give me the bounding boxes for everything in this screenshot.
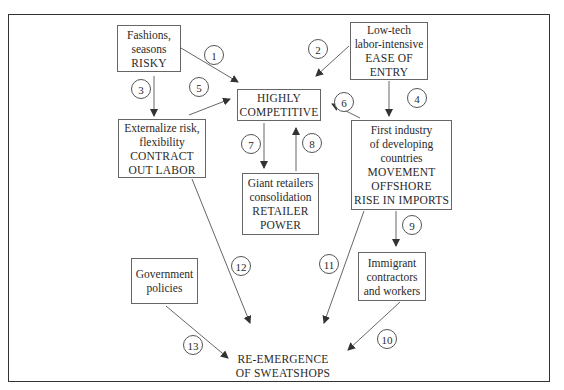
node-line: COMPETITIVE	[240, 105, 319, 119]
node-line: Externalize risk,	[124, 121, 199, 135]
node-giant-retailers: Giant retailers consolidation RETAILER P…	[242, 173, 319, 235]
node-government-policies: Government policies	[131, 258, 198, 304]
node-first-industry: First industry of developing countries M…	[351, 120, 452, 210]
edge-label-5: 5	[189, 77, 209, 97]
edge-label-2: 2	[308, 39, 328, 59]
edge-5-arrow	[189, 99, 230, 115]
node-line: contractors	[366, 270, 417, 284]
node-line: First industry	[371, 123, 433, 137]
node-line: RISKY	[131, 56, 167, 70]
node-line: CONTRACT	[130, 149, 194, 163]
edge-label-1: 1	[204, 45, 224, 65]
node-line: policies	[147, 281, 183, 295]
node-line: ENTRY	[370, 65, 409, 79]
node-externalize-risk: Externalize risk, flexibility CONTRACT O…	[118, 119, 206, 178]
node-line: countries	[380, 151, 422, 165]
node-line: Fashions,	[127, 28, 171, 42]
node-line: POWER	[260, 218, 301, 232]
edge-label-12: 12	[231, 256, 251, 276]
edge-label-8: 8	[302, 133, 322, 153]
node-low-tech-ease-of-entry: Low-tech labor-intensive EASE OF ENTRY	[350, 22, 428, 80]
node-highly-competitive: HIGHLY COMPETITIVE	[237, 89, 321, 121]
edge-label-6: 6	[334, 92, 354, 112]
edge-label-7: 7	[241, 134, 261, 154]
node-line: OFFSHORE	[371, 179, 431, 193]
node-line: RETAILER	[252, 204, 308, 218]
node-fashions-risky: Fashions, seasons RISKY	[117, 25, 181, 72]
node-immigrant-contractors: Immigrant contractors and workers	[358, 252, 426, 301]
node-line: Immigrant	[368, 256, 417, 270]
node-line: Government	[136, 267, 193, 281]
edge-label-9: 9	[402, 215, 422, 235]
node-line: consolidation	[250, 190, 312, 204]
node-line: RE-EMERGENCE	[232, 352, 334, 366]
node-line: seasons	[131, 42, 166, 56]
edge-label-11: 11	[319, 254, 339, 274]
node-line: EASE OF	[365, 51, 413, 65]
node-line: OF SWEATSHOPS	[232, 366, 334, 380]
node-line: labor-intensive	[355, 37, 424, 51]
edge-label-10: 10	[377, 329, 397, 349]
node-line: of developing	[370, 137, 434, 151]
edge-label-3: 3	[131, 79, 151, 99]
node-line: and workers	[364, 284, 421, 298]
node-line: Giant retailers	[248, 176, 313, 190]
edge-label-4: 4	[407, 88, 427, 108]
node-line: RISE IN IMPORTS	[354, 193, 449, 207]
node-line: OUT LABOR	[128, 163, 195, 177]
node-line: HIGHLY	[257, 91, 301, 105]
node-line: MOVEMENT	[367, 165, 435, 179]
edge-label-13: 13	[183, 335, 203, 355]
node-line: Low-tech	[367, 23, 411, 37]
node-re-emergence-of-sweatshops: RE-EMERGENCE OF SWEATSHOPS	[232, 352, 334, 380]
node-line: flexibility	[139, 135, 184, 149]
